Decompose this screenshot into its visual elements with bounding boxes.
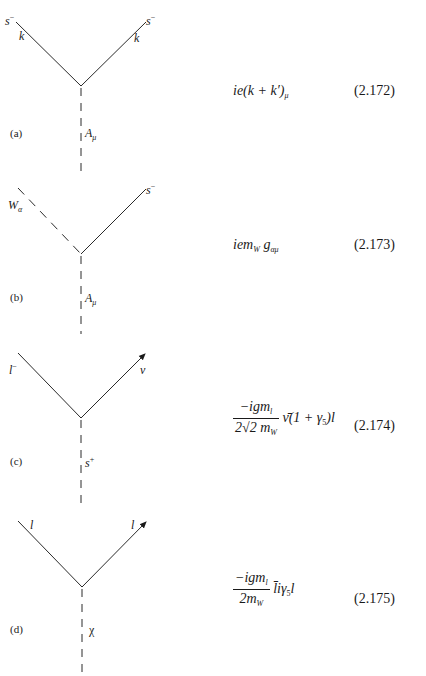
- diagram-d-left-particle: l: [30, 519, 33, 531]
- diagram-b-right-particle: s−: [146, 183, 155, 196]
- numerator-text: −igm: [235, 570, 265, 585]
- denominator-text: 2√2 m: [235, 420, 270, 435]
- diagram-a-tag: (a): [10, 128, 22, 139]
- numerator-sub: l: [265, 578, 267, 587]
- equation-body: g: [260, 237, 271, 252]
- diagram-c-left-particle: l−: [9, 363, 17, 376]
- equation-fraction: −igml 2mW: [233, 571, 270, 608]
- label-sup: +: [90, 455, 95, 464]
- equation-body: iem: [233, 237, 253, 252]
- diagram-d-chi-label: χ: [89, 624, 94, 636]
- label-sup: −: [12, 362, 17, 371]
- equation-sub: μ: [284, 91, 288, 100]
- equation-sub: αμ: [270, 245, 278, 254]
- label-sub: α: [18, 205, 22, 214]
- label-sup: −: [10, 13, 15, 22]
- diagram-c-scalar-label: s+: [85, 456, 94, 469]
- label-sub: μ: [92, 133, 96, 142]
- equation-2-174: −igml 2√2 mW ν̄(1 + γ5)l: [233, 400, 335, 437]
- diagram-a-left-particle: s−: [5, 14, 14, 27]
- equation-body: ν̄(1 + γ: [279, 410, 322, 425]
- fraction-numerator: −igml: [233, 400, 279, 419]
- diagram-a-photon-label: Aμ: [85, 127, 96, 142]
- label-sub: μ: [92, 298, 96, 307]
- equation-number-2-173: (2.173): [354, 238, 395, 252]
- diagram-b-lines: [18, 188, 146, 334]
- equation-2-172: ie(k + k′)μ: [233, 84, 288, 100]
- diagram-a-lines: [16, 22, 146, 172]
- equation-body: l: [290, 581, 294, 596]
- diagram-a-right-particle: s−: [146, 14, 155, 27]
- diagram-b-tag: (b): [10, 292, 23, 303]
- diagram-b-left-particle: Wα: [8, 199, 22, 214]
- feynman-diagram-lines: [0, 0, 426, 676]
- fraction-denominator: 2mW: [233, 590, 270, 608]
- diagram-a-left-momentum: k: [19, 30, 24, 42]
- fraction-numerator: −igml: [233, 571, 270, 590]
- label-sup: −: [151, 13, 156, 22]
- equation-2-175: −igml 2mW l̄iγ5l: [233, 571, 294, 608]
- denominator-sub: W: [257, 599, 264, 608]
- diagram-c-lines: [18, 353, 145, 505]
- numerator-text: −igm: [240, 399, 270, 414]
- equation-body: l̄iγ: [270, 581, 287, 596]
- equation-number-2-174: (2.174): [354, 419, 395, 433]
- diagram-d-right-particle: l: [131, 519, 134, 531]
- diagram-c-right-particle: ν: [140, 364, 145, 376]
- equation-number-2-175: (2.175): [354, 592, 395, 606]
- equation-body: ie(k + k′): [233, 83, 284, 98]
- equation-2-173: iemW gαμ: [233, 238, 279, 254]
- equation-number-2-172: (2.172): [354, 84, 395, 98]
- diagram-d-lines: [18, 521, 146, 672]
- equation-fraction: −igml 2√2 mW: [233, 400, 279, 437]
- equation-body: )l: [326, 410, 335, 425]
- equation-sub: W: [253, 245, 260, 254]
- label-base: W: [8, 198, 18, 212]
- numerator-sub: l: [270, 407, 272, 416]
- denominator-text: 2m: [239, 591, 256, 606]
- diagram-b-photon-label: Aμ: [85, 292, 96, 307]
- label-sup: −: [151, 182, 156, 191]
- diagram-c-tag: (c): [10, 456, 22, 467]
- diagram-d-tag: (d): [10, 624, 23, 635]
- diagram-a-right-momentum: k: [134, 32, 139, 44]
- fraction-denominator: 2√2 mW: [233, 419, 279, 437]
- denominator-sub: W: [270, 428, 277, 437]
